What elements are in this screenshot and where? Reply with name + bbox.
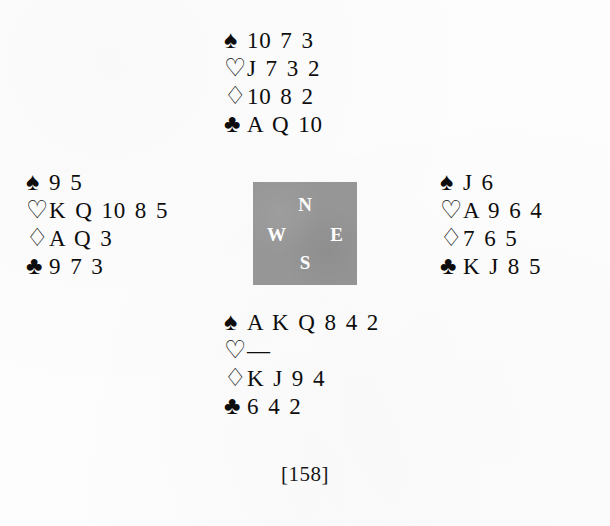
hand-south-diamonds-ranks: K J 9 4 [247,365,325,393]
hand-south-clubs-row: ♣ 6 4 2 [224,392,379,420]
diamond-icon: ♢ [440,224,463,252]
heart-icon: ♡ [224,54,247,82]
hand-east-spades-ranks: J 6 [463,169,494,197]
hand-west-spades-row: ♠ 9 5 [26,168,168,196]
hand-east: ♠ J 6 ♡ A 9 6 4 ♢ 7 6 5 ♣ K J 8 5 [440,168,543,280]
hand-north: ♠ 10 7 3 ♡ J 7 3 2 ♢ 10 8 2 ♣ A Q 10 [224,26,323,138]
compass-east-label: E [330,224,343,243]
hand-north-diamonds-row: ♢ 10 8 2 [224,82,323,110]
hand-south-spades-ranks: A K Q 8 4 2 [247,309,379,337]
heart-icon: ♡ [26,196,49,224]
heart-icon: ♡ [440,196,463,224]
hand-west-clubs-row: ♣ 9 7 3 [26,252,168,280]
hand-west-clubs-ranks: 9 7 3 [49,253,104,281]
hand-north-spades-row: ♠ 10 7 3 [224,26,323,54]
club-icon: ♣ [26,252,49,280]
hand-north-hearts-row: ♡ J 7 3 2 [224,54,323,82]
hand-south-clubs-ranks: 6 4 2 [247,393,302,421]
spade-icon: ♠ [224,308,247,336]
spade-icon: ♠ [224,26,247,54]
heart-icon: ♡ [224,336,247,364]
hand-south-hearts-row: ♡ — [224,336,379,364]
spade-icon: ♠ [26,168,49,196]
compass-west-label: W [267,224,286,243]
club-icon: ♣ [224,392,247,420]
hand-east-diamonds-row: ♢ 7 6 5 [440,224,543,252]
hand-west-spades-ranks: 9 5 [49,169,82,197]
hand-west-hearts-row: ♡ K Q 10 8 5 [26,196,168,224]
hand-north-spades-ranks: 10 7 3 [247,27,314,55]
hand-west-hearts-ranks: K Q 10 8 5 [49,197,168,225]
hand-south-diamonds-row: ♢ K J 9 4 [224,364,379,392]
hand-east-clubs-ranks: K J 8 5 [463,253,541,281]
hand-east-spades-row: ♠ J 6 [440,168,543,196]
compass-south-label: S [253,253,357,272]
hand-north-diamonds-ranks: 10 8 2 [247,83,314,111]
hand-east-hearts-row: ♡ A 9 6 4 [440,196,543,224]
compass-box: N W E S [253,182,357,285]
bridge-hand-diagram-page: ♠ 10 7 3 ♡ J 7 3 2 ♢ 10 8 2 ♣ A Q 10 ♠ 9… [0,0,610,526]
hand-north-clubs-row: ♣ A Q 10 [224,110,323,138]
page-marker: [158] [0,462,610,487]
hand-south-hearts-ranks: — [247,337,271,365]
hand-west-diamonds-ranks: A Q 3 [49,225,112,253]
compass-north-label: N [253,195,357,214]
hand-north-hearts-ranks: J 7 3 2 [247,55,320,83]
diamond-icon: ♢ [224,82,247,110]
club-icon: ♣ [224,110,247,138]
hand-west: ♠ 9 5 ♡ K Q 10 8 5 ♢ A Q 3 ♣ 9 7 3 [26,168,168,280]
hand-east-hearts-ranks: A 9 6 4 [463,197,543,225]
hand-south: ♠ A K Q 8 4 2 ♡ — ♢ K J 9 4 ♣ 6 4 2 [224,308,379,420]
hand-west-diamonds-row: ♢ A Q 3 [26,224,168,252]
hand-north-clubs-ranks: A Q 10 [247,111,323,139]
hand-east-diamonds-ranks: 7 6 5 [463,225,518,253]
diamond-icon: ♢ [224,364,247,392]
hand-east-clubs-row: ♣ K J 8 5 [440,252,543,280]
spade-icon: ♠ [440,168,463,196]
diamond-icon: ♢ [26,224,49,252]
club-icon: ♣ [440,252,463,280]
hand-south-spades-row: ♠ A K Q 8 4 2 [224,308,379,336]
